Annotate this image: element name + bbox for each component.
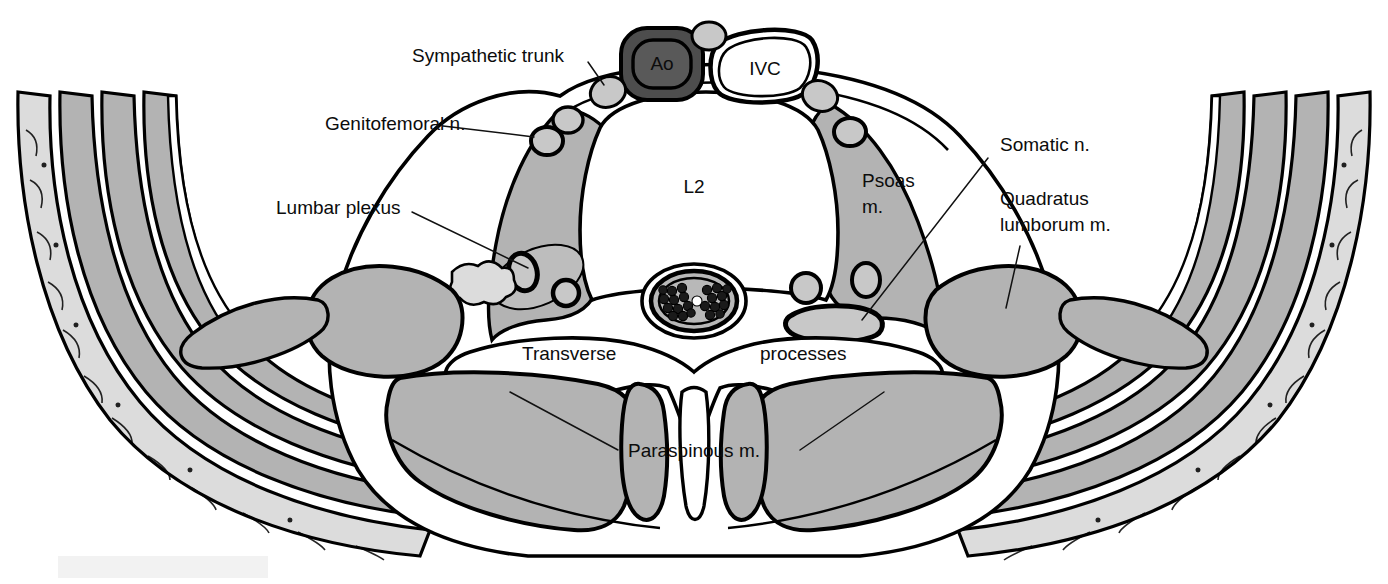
right-quadratus-lumborum-muscle [926,266,1082,377]
preaortic-node [692,22,726,50]
genitofemoral-nerve-lower [531,127,563,155]
label-processes: processes [760,343,847,364]
right-paravertebral-node [791,273,821,303]
anatomical-figure: Sympathetic trunk Genitofemoral n. Lumba… [0,0,1388,584]
scan-artifact-band [58,556,268,578]
axial-l2-cross-section-diagram: Sympathetic trunk Genitofemoral n. Lumba… [0,0,1388,584]
label-somatic-n: Somatic n. [1000,134,1090,155]
label-sympathetic-trunk: Sympathetic trunk [412,45,565,66]
label-paraspinous-m: Paraspinous m. [628,440,760,461]
label-psoas-line1: Psoas [862,170,915,191]
label-genitofemoral-n: Genitofemoral n. [325,113,465,134]
label-quadratus-lumborum-line2: lumborum m. [1000,214,1111,235]
dural-sac [642,264,746,338]
label-psoas-line2: m. [862,196,883,217]
label-vertebral-body-l2: L2 [683,176,704,197]
label-aorta: Ao [650,53,673,74]
label-ivc: IVC [749,58,781,79]
right-psoas-deep-node [852,263,880,297]
right-psoas-nerve-node [834,118,866,146]
left-quadratus-lumborum-muscle [306,266,462,377]
label-quadratus-lumborum-line1: Quadratus [1000,188,1089,209]
label-transverse: Transverse [522,343,616,364]
lumbar-plexus-root-small [553,280,579,306]
label-lumbar-plexus: Lumbar plexus [276,197,401,218]
